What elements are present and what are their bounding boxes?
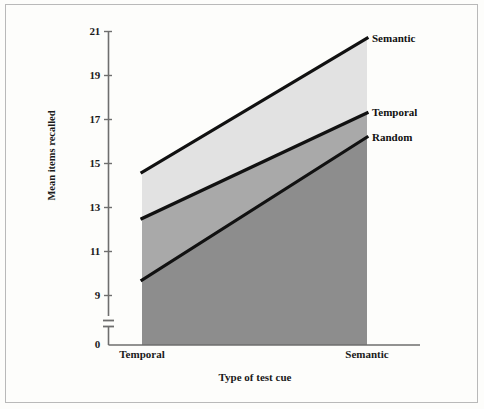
x-axis-title: Type of test cue <box>142 371 368 383</box>
series-label-semantic: Semantic <box>372 32 415 44</box>
y-tick-label-11: 11 <box>74 245 100 257</box>
y-tick-label-13: 13 <box>74 201 100 213</box>
series-label-temporal: Temporal <box>372 106 417 118</box>
y-tick-label-21: 21 <box>74 25 100 37</box>
y-tick-label-9: 9 <box>74 289 100 301</box>
y-axis-title: Mean items recalled <box>46 96 57 216</box>
chart-plot-area <box>0 0 484 409</box>
x-tick-label-temporal: Temporal <box>107 348 177 360</box>
y-tick-label-15: 15 <box>74 157 100 169</box>
y-tick-label-17: 17 <box>74 113 100 125</box>
series-label-random: Random <box>372 131 412 143</box>
y-tick-label-zero: 0 <box>74 338 100 350</box>
y-tick-label-19: 19 <box>74 69 100 81</box>
figure-container: 21 19 17 15 13 11 9 0 Mean items recalle… <box>0 0 484 409</box>
x-tick-label-semantic: Semantic <box>332 348 402 360</box>
